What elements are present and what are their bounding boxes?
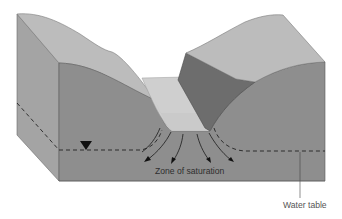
stream-block-diagram bbox=[0, 0, 342, 219]
zone-of-saturation-label: Zone of saturation bbox=[155, 166, 224, 176]
water-table-label: Water table bbox=[283, 200, 327, 210]
